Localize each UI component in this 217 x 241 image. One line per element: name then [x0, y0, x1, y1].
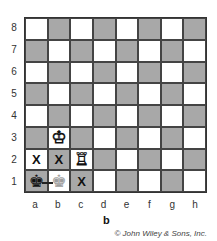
rank-label-3: 3: [8, 132, 20, 143]
square-h2: [183, 149, 206, 171]
square-a4: [25, 105, 48, 127]
copyright-notice: © John Wiley & Sons, Inc.: [114, 229, 207, 238]
square-g8: [161, 18, 184, 40]
square-g3: [161, 127, 184, 149]
square-d4: [93, 105, 116, 127]
square-f8: [138, 18, 161, 40]
square-h3: [183, 127, 206, 149]
square-f2: [138, 149, 161, 171]
square-h8: [183, 18, 206, 40]
square-c7: [70, 40, 93, 62]
file-label-f: f: [138, 199, 160, 210]
square-a6: [25, 62, 48, 84]
square-b7: [48, 40, 71, 62]
square-b3: ♔: [48, 127, 71, 149]
square-g6: [161, 62, 184, 84]
file-label-d: d: [93, 199, 115, 210]
rank-label-8: 8: [8, 22, 20, 33]
square-f6: [138, 62, 161, 84]
rank-label-5: 5: [8, 88, 20, 99]
file-label-b: b: [47, 199, 69, 210]
square-c3: [70, 127, 93, 149]
square-b2: X: [48, 149, 71, 171]
attacked-square-mark: X: [32, 152, 41, 167]
square-f4: [138, 105, 161, 127]
attacked-square-mark: X: [55, 152, 64, 167]
square-d1: [93, 170, 116, 192]
square-f7: [138, 40, 161, 62]
square-a7: [25, 40, 48, 62]
square-c2: ♖: [70, 149, 93, 171]
square-d8: [93, 18, 116, 40]
square-f1: [138, 170, 161, 192]
rank-label-7: 7: [8, 44, 20, 55]
file-label-c: c: [70, 199, 92, 210]
file-label-a: a: [24, 199, 46, 210]
square-g1: [161, 170, 184, 192]
rank-label-1: 1: [8, 176, 20, 187]
square-h1: [183, 170, 206, 192]
ghost-king-icon: ♚: [51, 173, 66, 190]
square-e5: [116, 83, 139, 105]
file-label-h: h: [184, 199, 206, 210]
square-e4: [116, 105, 139, 127]
white-king-icon: ♔: [51, 129, 66, 146]
file-label-g: g: [161, 199, 183, 210]
square-c8: [70, 18, 93, 40]
square-e1: [116, 170, 139, 192]
square-g2: [161, 149, 184, 171]
square-h7: [183, 40, 206, 62]
square-d6: [93, 62, 116, 84]
square-a5: [25, 83, 48, 105]
rank-label-6: 6: [8, 66, 20, 77]
diagram-caption: b: [103, 214, 110, 226]
square-h6: [183, 62, 206, 84]
square-e8: [116, 18, 139, 40]
square-e2: [116, 149, 139, 171]
square-h5: [183, 83, 206, 105]
square-c4: [70, 105, 93, 127]
square-b8: [48, 18, 71, 40]
square-d5: [93, 83, 116, 105]
move-arrow: [42, 182, 52, 184]
square-c1: X: [70, 170, 93, 192]
rank-label-2: 2: [8, 154, 20, 165]
square-b5: [48, 83, 71, 105]
square-d2: [93, 149, 116, 171]
square-e3: [116, 127, 139, 149]
square-a2: X: [25, 149, 48, 171]
square-d3: [93, 127, 116, 149]
square-b4: [48, 105, 71, 127]
square-f5: [138, 83, 161, 105]
square-d7: [93, 40, 116, 62]
attacked-square-mark: X: [77, 174, 86, 189]
square-f3: [138, 127, 161, 149]
square-a3: [25, 127, 48, 149]
square-b6: [48, 62, 71, 84]
file-label-e: e: [116, 199, 138, 210]
rank-label-4: 4: [8, 110, 20, 121]
chess-board: ♔XX♖♚♚X: [24, 17, 207, 193]
square-a8: [25, 18, 48, 40]
square-e7: [116, 40, 139, 62]
white-rook-icon: ♖: [74, 151, 89, 168]
square-e6: [116, 62, 139, 84]
square-h4: [183, 105, 206, 127]
square-c6: [70, 62, 93, 84]
square-g5: [161, 83, 184, 105]
square-c5: [70, 83, 93, 105]
square-g7: [161, 40, 184, 62]
square-g4: [161, 105, 184, 127]
